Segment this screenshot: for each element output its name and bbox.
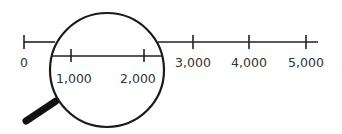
label-3000: 3,000: [175, 55, 211, 70]
magnifying-glass-icon: [50, 13, 164, 127]
label-1000: 1,000: [56, 71, 92, 86]
label-5000: 5,000: [288, 55, 324, 70]
label-2000: 2,000: [120, 71, 156, 86]
number-line-diagram: 0 3,000 4,000 5,000 1,000 2,000: [0, 0, 342, 134]
magnifying-glass-handle-icon: [26, 101, 56, 121]
label-4000: 4,000: [231, 55, 267, 70]
label-0: 0: [20, 55, 28, 70]
